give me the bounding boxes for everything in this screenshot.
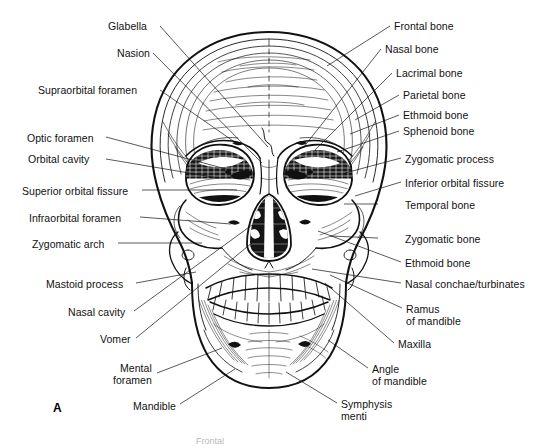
label-mental-foramen: Mental foramen [113, 363, 152, 386]
label-vomer: Vomer [100, 334, 131, 346]
label-nasion: Nasion [117, 48, 150, 60]
label-orbital-cavity: Orbital cavity [28, 154, 89, 166]
label-zygomatic-bone: Zygomatic bone [405, 234, 480, 246]
label-mandible: Mandible [133, 401, 176, 413]
label-nasal-conchae-turbinates: Nasal conchae/turbinates [405, 279, 525, 291]
label-lacrimal-bone: Lacrimal bone [396, 68, 463, 80]
panel-letter: A [53, 401, 62, 415]
label-zygomatic-process: Zygomatic process [405, 154, 494, 166]
anatomy-figure-skull-anterior: GlabellaNasionSupraorbital foramenOptic … [0, 0, 539, 448]
label-temporal-bone: Temporal bone [405, 200, 475, 212]
label-glabella: Glabella [108, 21, 147, 33]
label-parietal-bone: Parietal bone [403, 90, 466, 102]
label-frontal-bone: Frontal bone [394, 21, 454, 33]
label-superior-orbital-fissure: Superior orbital fissure [22, 186, 128, 198]
label-maxilla: Maxilla [398, 339, 431, 351]
label-nasal-bone: Nasal bone [385, 44, 439, 56]
label-mastoid-process: Mastoid process [46, 279, 123, 291]
label-ramus-of-mandible: Ramus of mandible [406, 304, 461, 327]
label-angle-of-mandible: Angle of mandible [372, 364, 427, 387]
label-ethmoid-bone: Ethmoid bone [403, 110, 468, 122]
label-symphysis-menti: Symphysis menti [341, 399, 392, 422]
label-sphenoid-bone: Sphenoid bone [403, 126, 474, 138]
label-ethmoid-bone: Ethmoid bone [405, 258, 470, 270]
caption-strip: Frontal [0, 438, 539, 448]
label-inferior-orbital-fissure: Inferior orbital fissure [405, 178, 504, 190]
label-zygomatic-arch: Zygomatic arch [32, 239, 104, 251]
label-supraorbital-foramen: Supraorbital foramen [38, 85, 137, 97]
label-infraorbital-foramen: Infraorbital foramen [29, 213, 121, 225]
caption-partial-text: Frontal [196, 438, 224, 446]
label-optic-foramen: Optic foramen [27, 133, 94, 145]
label-nasal-cavity: Nasal cavity [68, 307, 125, 319]
